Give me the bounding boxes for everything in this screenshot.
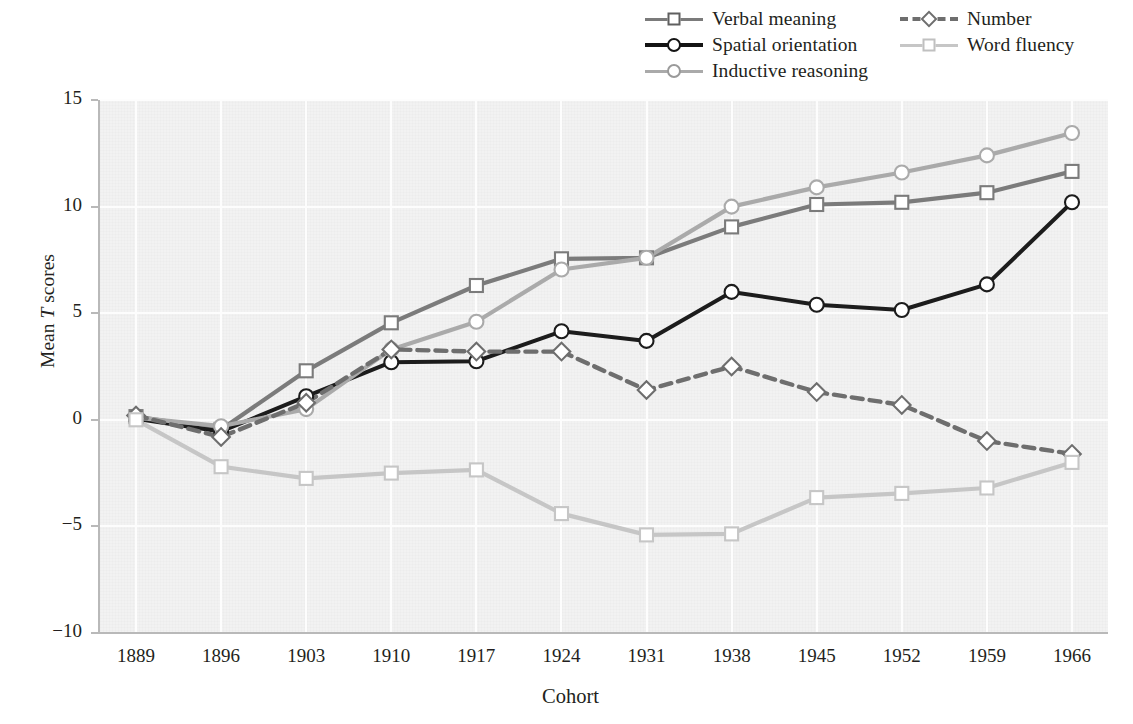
data-point-square[interactable] (215, 460, 228, 473)
series-layer (0, 0, 1133, 724)
data-point-circle[interactable] (1065, 195, 1079, 209)
data-point-square[interactable] (810, 198, 823, 211)
data-point-circle[interactable] (555, 263, 569, 277)
data-point-square[interactable] (300, 472, 313, 485)
data-point-diamond[interactable] (553, 343, 571, 361)
data-point-diamond[interactable] (808, 383, 826, 401)
data-point-square[interactable] (725, 220, 738, 233)
data-point-square[interactable] (725, 527, 738, 540)
data-point-square[interactable] (385, 316, 398, 329)
data-point-circle[interactable] (895, 303, 909, 317)
data-point-square[interactable] (555, 507, 568, 520)
data-point-circle[interactable] (810, 180, 824, 194)
series-line (136, 202, 1072, 431)
data-point-square[interactable] (810, 491, 823, 504)
data-point-circle[interactable] (895, 166, 909, 180)
data-point-circle[interactable] (725, 285, 739, 299)
data-point-circle[interactable] (555, 324, 569, 338)
data-point-circle[interactable] (725, 200, 739, 214)
data-point-diamond[interactable] (893, 396, 911, 414)
data-point-circle[interactable] (980, 277, 994, 291)
data-point-circle[interactable] (980, 148, 994, 162)
series-line (136, 349, 1072, 454)
data-point-diamond[interactable] (978, 432, 996, 450)
data-point-square[interactable] (300, 364, 313, 377)
series-line (136, 420, 1072, 535)
data-point-circle[interactable] (810, 298, 824, 312)
data-point-square[interactable] (895, 196, 908, 209)
chart-figure: Verbal meaning Spatial orientation Induc… (0, 0, 1133, 724)
data-point-diamond[interactable] (723, 358, 741, 376)
data-point-square[interactable] (980, 482, 993, 495)
data-point-square[interactable] (640, 528, 653, 541)
data-point-square[interactable] (130, 413, 143, 426)
data-point-square[interactable] (470, 463, 483, 476)
data-point-square[interactable] (470, 279, 483, 292)
data-point-square[interactable] (1066, 165, 1079, 178)
data-point-circle[interactable] (640, 334, 654, 348)
data-point-square[interactable] (385, 467, 398, 480)
data-point-circle[interactable] (640, 251, 654, 265)
data-point-square[interactable] (1066, 456, 1079, 469)
data-point-circle[interactable] (1065, 126, 1079, 140)
data-point-square[interactable] (980, 186, 993, 199)
data-point-circle[interactable] (469, 315, 483, 329)
data-point-square[interactable] (895, 487, 908, 500)
data-point-diamond[interactable] (638, 381, 656, 399)
series-line (136, 133, 1072, 426)
